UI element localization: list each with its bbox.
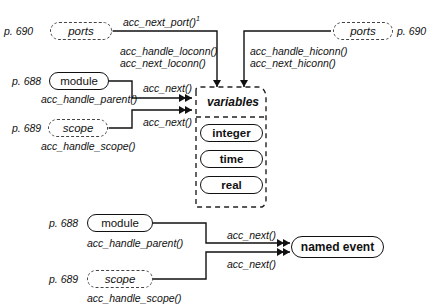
page-ref-module-bottom: p. 688 — [49, 217, 78, 229]
label-acc-next-port: acc_next_port()1 — [123, 13, 200, 28]
node-ports-right[interactable]: ports — [333, 22, 393, 40]
page-ref-ports-right: p. 690 — [397, 25, 426, 37]
label-acc-handle-parent-bottom: acc_handle_parent() — [87, 237, 183, 249]
node-named-event[interactable]: named event — [291, 236, 384, 258]
node-scope-bottom[interactable]: scope — [87, 270, 153, 288]
label-acc-handle-loconn: acc_handle_loconn() — [120, 45, 217, 57]
node-module-bottom[interactable]: module — [87, 214, 153, 232]
label-acc-handle-scope-bottom: acc_handle_scope() — [87, 292, 182, 304]
node-module[interactable]: module — [49, 72, 109, 90]
page-ref-scope: p. 689 — [12, 122, 41, 134]
label-acc-next-scope-bottom: acc_next() — [227, 258, 276, 270]
label-acc-next-module-bottom: acc_next() — [227, 229, 276, 241]
page-ref-module: p. 688 — [12, 75, 41, 87]
label-acc-handle-scope: acc_handle_scope() — [41, 140, 136, 152]
label-acc-next-loconn: acc_next_loconn() — [120, 57, 206, 69]
node-real[interactable]: real — [200, 176, 263, 194]
label-acc-next-module: acc_next() — [143, 82, 192, 94]
label-acc-handle-parent: acc_handle_parent() — [41, 93, 137, 105]
page-ref-ports-left: p. 690 — [4, 25, 33, 37]
label-acc-handle-hiconn: acc_handle_hiconn() — [250, 45, 347, 57]
node-time[interactable]: time — [200, 150, 263, 168]
variables-title: variables — [207, 96, 259, 108]
label-acc-next-scope: acc_next() — [143, 116, 192, 128]
page-ref-scope-bottom: p. 689 — [49, 273, 78, 285]
node-integer[interactable]: integer — [200, 124, 263, 142]
node-ports-left[interactable]: ports — [50, 22, 112, 40]
label-acc-next-hiconn: acc_next_hiconn() — [250, 57, 336, 69]
node-scope[interactable]: scope — [48, 119, 108, 137]
